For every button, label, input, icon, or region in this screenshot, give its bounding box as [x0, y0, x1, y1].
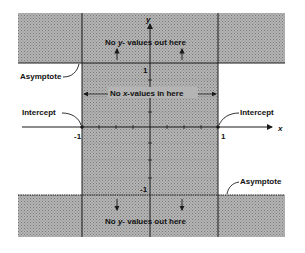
asymptote-label-bottom: Asymptote	[240, 177, 282, 186]
intercept-right-leader	[219, 113, 239, 125]
tick-label-y-pos1: 1	[143, 66, 148, 75]
intercept-point-right	[216, 125, 220, 129]
intercept-label-right: Intercept	[240, 108, 274, 117]
x-axis-label: x	[277, 124, 283, 133]
tick-label-x-pos1: 1	[221, 132, 226, 141]
intercept-label-left: Intercept	[22, 108, 56, 117]
asymptote-label-top: Asymptote	[20, 72, 62, 81]
y-axis-label: y	[145, 15, 151, 24]
bottom-region-note: No y- values out here	[105, 217, 186, 226]
bottom-shaded-region	[18, 195, 285, 237]
top-region-note: No y- values out here	[105, 38, 186, 47]
asymptote-top-leader	[63, 64, 79, 77]
domain-range-diagram: y x -1 1 1 -1 No y- values out here No x…	[0, 0, 305, 253]
middle-region-note: No x-values in here	[110, 89, 184, 98]
tick-label-x-neg1: -1	[74, 132, 82, 141]
intercept-point-left	[80, 125, 84, 129]
asymptote-bottom-leader	[227, 182, 239, 194]
tick-label-y-neg1: -1	[140, 185, 148, 194]
intercept-left-leader	[62, 113, 81, 125]
